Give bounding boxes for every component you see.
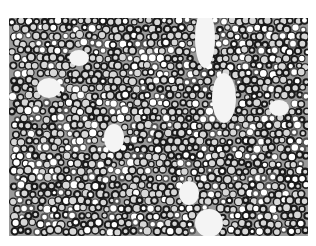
cell-micrograph [9, 18, 308, 236]
cell-texture [9, 18, 308, 236]
